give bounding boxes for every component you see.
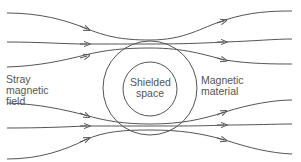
field-line-5 (7, 124, 292, 128)
label-line: space (130, 88, 170, 99)
label-line: field (6, 96, 49, 107)
field-line-6 (7, 130, 292, 159)
field-line-4 (7, 100, 292, 124)
field-line-3 (7, 48, 292, 67)
arrow-icon (80, 139, 87, 142)
arrow-icon (80, 26, 87, 29)
magnetic-material-label: Magnetic material (201, 75, 244, 97)
field-line-1 (7, 11, 292, 40)
shielded-space-label: Shielded space (130, 77, 170, 99)
label-line: material (201, 86, 244, 97)
stray-field-label: Stray magnetic field (6, 74, 49, 107)
arrow-icon (217, 112, 224, 115)
